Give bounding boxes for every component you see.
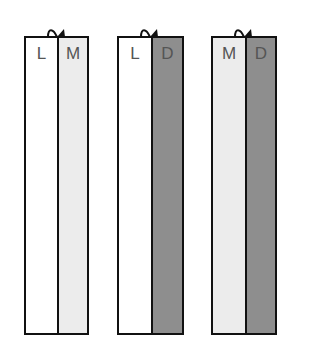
strip-pair-2: L D <box>117 36 184 335</box>
strip-label: M <box>59 44 87 64</box>
strip-medium: M <box>59 38 87 333</box>
strip-light: L <box>119 38 153 333</box>
strip-light: L <box>26 38 59 333</box>
strip-pair-3: M D <box>211 36 277 335</box>
strip-pair-1: L M <box>24 36 89 335</box>
strip-medium: M <box>213 38 247 333</box>
strip-label: D <box>247 44 275 64</box>
strip-label: L <box>119 44 151 64</box>
strip-dark: D <box>153 38 182 333</box>
strip-label: D <box>153 44 182 64</box>
strip-dark: D <box>247 38 275 333</box>
strip-label: L <box>26 44 57 64</box>
strip-label: M <box>213 44 245 64</box>
